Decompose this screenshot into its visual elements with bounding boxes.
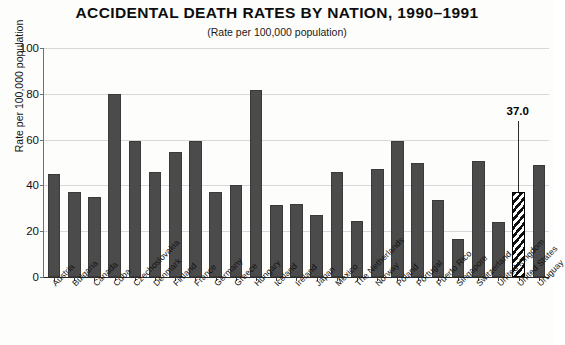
y-tick-label: 0 bbox=[33, 271, 39, 283]
callout-value-label: 37.0 bbox=[506, 105, 528, 117]
bar-slot bbox=[432, 48, 445, 277]
bar-slot bbox=[189, 48, 202, 277]
callout-leader-line bbox=[518, 121, 519, 192]
y-tick-label: 100 bbox=[20, 42, 39, 54]
bar-series bbox=[44, 48, 549, 277]
bar[interactable] bbox=[250, 90, 263, 277]
y-tick-label: 20 bbox=[26, 225, 39, 237]
y-tick-label: 60 bbox=[26, 134, 39, 146]
bar-slot bbox=[250, 48, 263, 277]
bar[interactable] bbox=[189, 141, 202, 277]
y-axis-title: Rate per 100,000 population bbox=[13, 0, 25, 181]
bar-slot bbox=[68, 48, 81, 277]
bar-slot bbox=[310, 48, 323, 277]
bar-slot bbox=[472, 48, 485, 277]
bar-slot bbox=[452, 48, 465, 277]
bar-slot bbox=[149, 48, 162, 277]
bar-slot bbox=[331, 48, 344, 277]
plot-area: 020406080100 bbox=[43, 48, 549, 278]
bar-slot bbox=[230, 48, 243, 277]
bar[interactable] bbox=[108, 94, 121, 277]
bar[interactable] bbox=[391, 141, 404, 277]
bar-slot bbox=[88, 48, 101, 277]
bar-slot bbox=[290, 48, 303, 277]
x-axis-labels: AustriaBulgariaCanadaCubaCzechoslovakiaD… bbox=[43, 281, 548, 345]
bar-slot bbox=[371, 48, 384, 277]
chart-subtitle: (Rate per 100,000 population) bbox=[0, 26, 554, 38]
y-tick-mark bbox=[40, 277, 44, 278]
bar[interactable] bbox=[129, 141, 142, 277]
bar[interactable] bbox=[411, 163, 424, 278]
bar-slot bbox=[129, 48, 142, 277]
bar[interactable] bbox=[48, 174, 61, 277]
bar-slot bbox=[48, 48, 61, 277]
bar-slot bbox=[351, 48, 364, 277]
bar-slot bbox=[108, 48, 121, 277]
bar-slot bbox=[270, 48, 283, 277]
bar-slot bbox=[512, 48, 525, 277]
chart-title: ACCIDENTAL DEATH RATES BY NATION, 1990–1… bbox=[0, 4, 554, 22]
bar[interactable] bbox=[331, 172, 344, 277]
y-tick-label: 80 bbox=[26, 88, 39, 100]
bar-slot bbox=[492, 48, 505, 277]
y-tick-label: 40 bbox=[26, 179, 39, 191]
bar-slot bbox=[411, 48, 424, 277]
bar-slot bbox=[209, 48, 222, 277]
